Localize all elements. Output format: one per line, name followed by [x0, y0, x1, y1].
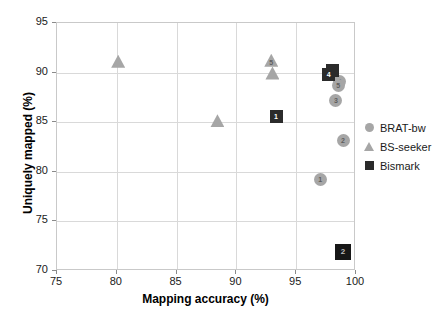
gridline-horizontal — [57, 122, 354, 123]
gridline-vertical — [236, 23, 237, 269]
gridline-horizontal — [57, 172, 354, 173]
data-point-square: 1 — [270, 110, 283, 123]
y-axis-tick — [52, 171, 56, 172]
x-axis-tick — [176, 270, 177, 274]
x-axis-tick-label: 100 — [335, 275, 375, 288]
y-axis-tick — [52, 22, 56, 23]
legend-item-bismark: Bismark — [362, 156, 440, 175]
gridline-vertical — [296, 23, 297, 269]
square-swatch — [365, 161, 374, 170]
data-point-square: 4 — [322, 68, 335, 81]
y-axis-tick — [52, 121, 56, 122]
gridline-horizontal — [57, 73, 354, 74]
gridline-horizontal — [57, 221, 354, 222]
square-marker-icon — [362, 161, 376, 170]
legend-item-bs-seeker: BS-seeker — [362, 137, 440, 156]
triangle-marker-icon — [362, 142, 376, 151]
legend-item-label: BRAT-bw — [380, 122, 426, 134]
x-axis-tick — [295, 270, 296, 274]
y-axis-tick-label: 70 — [18, 263, 48, 276]
data-point-square: 2 — [335, 244, 351, 260]
y-axis-tick-label: 95 — [18, 15, 48, 28]
x-axis-tick-label: 75 — [36, 275, 76, 288]
x-axis-tick-label: 80 — [96, 275, 136, 288]
legend: BRAT-bwBS-seekerBismark — [362, 118, 440, 175]
x-axis-tick-label: 95 — [275, 275, 315, 288]
triangle-swatch — [364, 142, 374, 151]
y-axis-tick-label: 90 — [18, 65, 48, 78]
x-axis-tick — [116, 270, 117, 274]
x-axis-tick — [235, 270, 236, 274]
circle-marker-icon — [362, 123, 376, 132]
y-axis-tick-label: 85 — [18, 114, 48, 127]
scatter-plot-figure: Mapping accuracy (%) Uniquely mapped (%)… — [0, 0, 441, 322]
legend-item-label: Bismark — [380, 160, 420, 172]
data-point-circle: 1 — [314, 173, 327, 186]
y-axis-tick-label: 80 — [18, 164, 48, 177]
circle-swatch — [365, 123, 374, 132]
legend-item-brat-bw: BRAT-bw — [362, 118, 440, 137]
y-axis-tick — [52, 220, 56, 221]
x-axis-tick-label: 90 — [215, 275, 255, 288]
x-axis-tick — [56, 270, 57, 274]
plot-area — [56, 22, 355, 270]
gridline-vertical — [177, 23, 178, 269]
data-point-circle: 2 — [337, 134, 350, 147]
x-axis-tick-label: 85 — [156, 275, 196, 288]
y-axis-tick — [52, 72, 56, 73]
y-axis-tick — [52, 270, 56, 271]
x-axis-tick — [355, 270, 356, 274]
x-axis-title: Mapping accuracy (%) — [56, 292, 355, 306]
legend-item-label: BS-seeker — [380, 141, 431, 153]
y-axis-tick-label: 75 — [18, 213, 48, 226]
